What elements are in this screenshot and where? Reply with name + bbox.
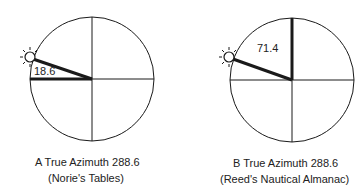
- caption-a-line1: A True Azimuth 288.6: [35, 155, 140, 169]
- caption-a-line2: (Norie's Tables): [48, 171, 124, 185]
- angle-label-a: 18.6: [34, 64, 55, 78]
- angle-label-b: 71.4: [257, 41, 278, 55]
- caption-b-line2: (Reed's Nautical Almanac): [220, 172, 349, 186]
- sun-bearing-line-b: [233, 59, 292, 80]
- caption-b-line1: B True Azimuth 288.6: [233, 156, 338, 170]
- diagram-b: [219, 18, 354, 142]
- sun-icon: [219, 47, 236, 67]
- diagram-a: [20, 17, 154, 141]
